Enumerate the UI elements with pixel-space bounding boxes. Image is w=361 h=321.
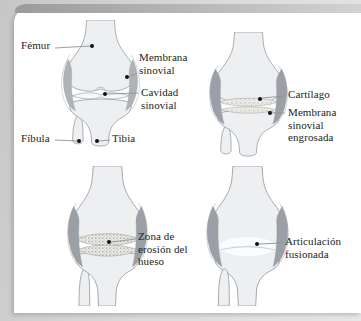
leader-cartilago [258, 96, 285, 101]
leader-lines-overlay [0, 0, 361, 321]
leader-membrana-sinovial [125, 73, 137, 79]
label-articulacion-fusionada: Articulación fusionada [285, 235, 341, 260]
leader-femur [55, 44, 94, 48]
leader-tibia [95, 139, 110, 143]
leader-cavidad-sinovial [103, 92, 138, 96]
label-fibula: Fíbula [21, 132, 50, 145]
leader-articulacion-fusionada [255, 242, 282, 246]
label-cavidad-sinovial: Cavidad sinovial [141, 86, 178, 111]
label-membrana-sinovial-engrosada: Membrana sinovial engrosada [288, 106, 336, 144]
leader-zona-erosion [107, 239, 136, 244]
label-zona-erosion-hueso: Zona de erosión del hueso [138, 230, 188, 268]
leader-fibula [55, 139, 81, 143]
label-tibia: Tibia [112, 132, 135, 145]
label-membrana-sinovial: Membrana sinovial [139, 51, 187, 76]
figure-page: { "diagram": { "labels": { "femur": "Fém… [0, 0, 361, 321]
leader-membrana-engrosada [268, 111, 285, 115]
label-cartilago: Cartílago [288, 88, 330, 101]
label-femur: Fémur [21, 39, 50, 52]
